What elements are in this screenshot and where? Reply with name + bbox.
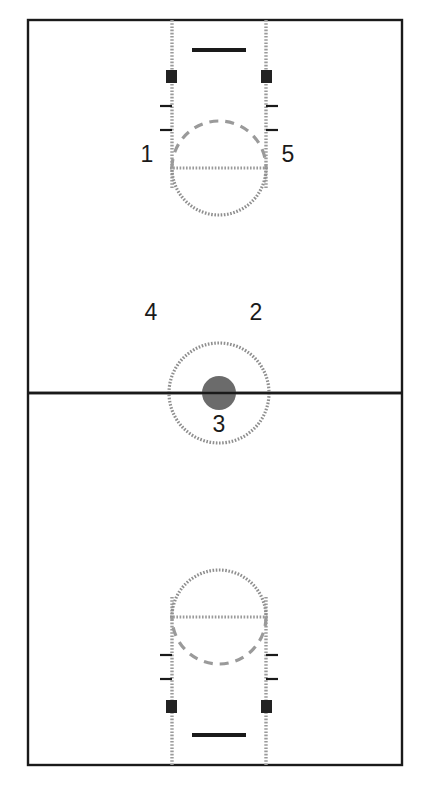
bottom-lane-block-right bbox=[261, 700, 272, 713]
basketball-court-svg: 15423 bbox=[0, 0, 429, 793]
position-label-1: 1 bbox=[141, 141, 154, 167]
position-label-2: 2 bbox=[250, 299, 263, 325]
position-label-4: 4 bbox=[145, 299, 158, 325]
position-label-3: 3 bbox=[213, 411, 226, 437]
top-lane-block-left bbox=[166, 70, 177, 83]
top-lane-block-right bbox=[261, 70, 272, 83]
court-diagram: 15423 bbox=[0, 0, 429, 793]
bottom-lane-block-left bbox=[166, 700, 177, 713]
position-label-5: 5 bbox=[282, 141, 295, 167]
